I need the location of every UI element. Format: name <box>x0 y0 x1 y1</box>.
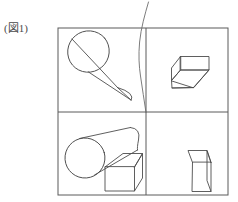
cuboid-tall-right-face <box>207 151 211 192</box>
quadrant-bottom-left <box>60 128 142 192</box>
cuboid-wide-top-face <box>105 154 143 168</box>
cylinder-diagonal-side-lower <box>89 72 132 100</box>
cuboid-wide-front-face <box>105 167 135 191</box>
wedge-prism-top-face <box>181 57 210 71</box>
quadrant-bottom-right <box>188 151 211 192</box>
quadrant-top-right <box>172 57 210 89</box>
cylinder-horizontal-side-upper <box>80 128 131 139</box>
cuboid-tall-front-face <box>192 163 211 192</box>
wedge-prism-front-face <box>172 70 210 88</box>
cylinder-horizontal-front-face <box>60 133 109 182</box>
cylinder-diagonal-side-upper <box>72 39 118 88</box>
wedge-prism-bottom-slant <box>172 70 209 88</box>
figure-container: (図1) <box>0 0 238 202</box>
figure-drawing <box>0 0 238 202</box>
hand-drawn-curve <box>139 2 149 113</box>
cylinder-horizontal-far-cap <box>131 128 139 151</box>
wedge-prism-left-face <box>172 57 181 81</box>
quadrant-top-left <box>59 22 132 100</box>
cuboid-wide-right-face <box>135 154 143 192</box>
